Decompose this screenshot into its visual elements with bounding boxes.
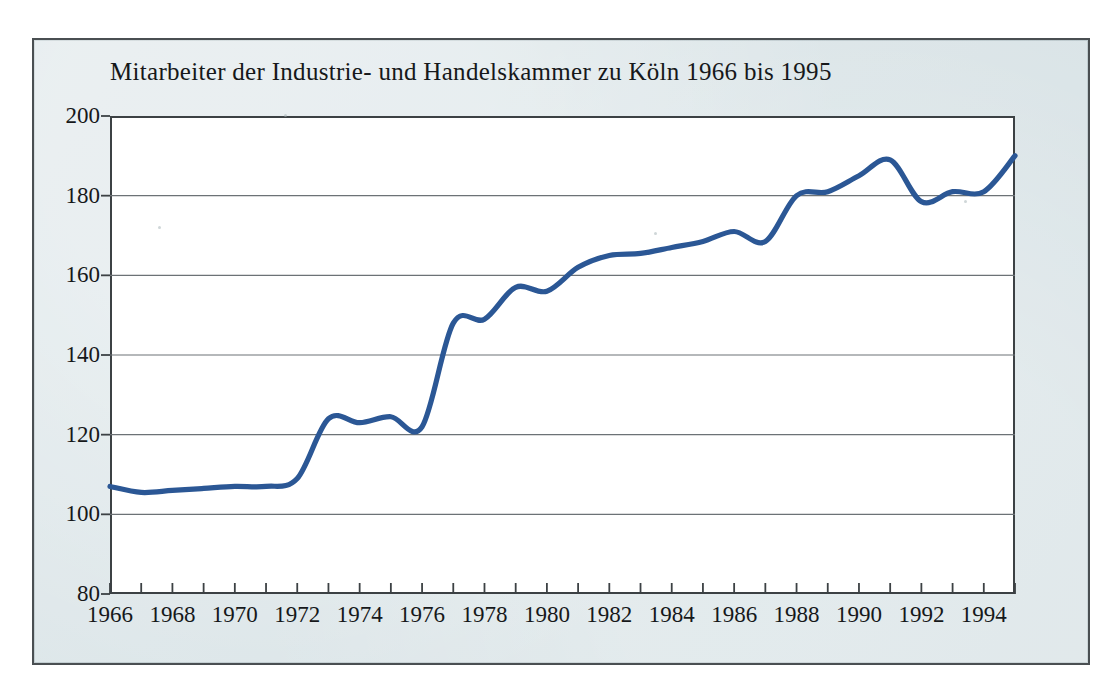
x-axis-labels: 1966196819701972197419761978198019821984… <box>110 602 1015 636</box>
y-axis-label-200: 200 <box>66 103 101 129</box>
x-axis-label-1970: 1970 <box>212 602 258 628</box>
x-axis-label-1988: 1988 <box>774 602 820 628</box>
x-axis-label-1972: 1972 <box>274 602 320 628</box>
y-axis-label-100: 100 <box>66 501 101 527</box>
chart-title: Mitarbeiter der Industrie- und Handelska… <box>110 58 832 86</box>
x-axis-label-1994: 1994 <box>961 602 1007 628</box>
x-axis-label-1966: 1966 <box>87 602 133 628</box>
page-root: Mitarbeiter der Industrie- und Handelska… <box>0 0 1120 693</box>
y-axis-label-140: 140 <box>66 342 101 368</box>
y-axis-labels: 80100120140160180200 <box>44 116 100 594</box>
x-axis-label-1976: 1976 <box>399 602 445 628</box>
x-axis-label-1986: 1986 <box>711 602 757 628</box>
paper-speck <box>158 226 161 229</box>
data-line <box>110 156 1015 493</box>
x-axis-label-1968: 1968 <box>149 602 195 628</box>
x-axis-label-1990: 1990 <box>836 602 882 628</box>
x-axis-label-1992: 1992 <box>898 602 944 628</box>
figure-frame: Mitarbeiter der Industrie- und Handelska… <box>32 38 1090 665</box>
x-axis-label-1980: 1980 <box>524 602 570 628</box>
y-axis-label-180: 180 <box>66 183 101 209</box>
paper-speck <box>284 114 287 117</box>
x-axis-label-1978: 1978 <box>461 602 507 628</box>
chart-plot-area: 80100120140160180200 1966196819701972197… <box>110 116 1015 594</box>
x-axis-label-1984: 1984 <box>649 602 695 628</box>
x-axis-label-1982: 1982 <box>586 602 632 628</box>
y-axis-label-120: 120 <box>66 422 101 448</box>
paper-speck <box>654 232 657 235</box>
data-series-layer <box>110 116 1015 594</box>
y-axis-label-160: 160 <box>66 262 101 288</box>
x-axis-label-1974: 1974 <box>337 602 383 628</box>
paper-speck <box>964 200 967 203</box>
